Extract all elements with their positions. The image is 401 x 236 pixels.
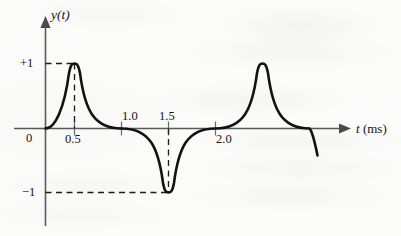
x-tick-label-1-5: 1.5 [159,110,175,123]
x-tick-label-1-0: 1.0 [122,110,138,123]
x-axis-label-unit: (ms) [363,121,387,136]
x-axis-label: t (ms) [356,122,387,135]
origin-tick-label: 0 [26,132,32,145]
y-tick-label-minus-1: −1 [22,186,35,199]
x-tick-label-0-5: 0.5 [65,133,81,146]
x-axis-arrowhead [339,123,351,133]
x-tick-label-2-0: 2.0 [216,133,232,146]
y-axis-label: y(t) [51,8,70,22]
sinusoid-plot [0,0,401,236]
y-axis-arrowhead [40,16,50,28]
figure-canvas: y(t) t (ms) 0 0.5 1.0 1.5 2.0 +1 −1 [0,0,401,236]
y-tick-label-plus-1: +1 [20,57,33,70]
y-axis [40,16,50,226]
trough-guide-lines [46,129,169,193]
